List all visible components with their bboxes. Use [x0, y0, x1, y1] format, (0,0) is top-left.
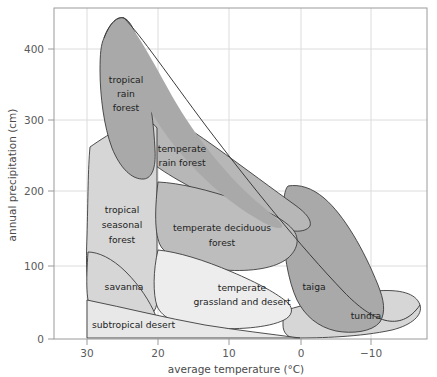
x-tick-label-20: 20 [151, 347, 164, 359]
label-tundra: tundra [351, 310, 382, 321]
x-tick-label-neg10: −10 [360, 347, 382, 359]
label-tropical-rain-forest-line2: rain [117, 88, 135, 99]
y-tick-label-300: 300 [24, 114, 44, 126]
x-tick-label-10: 10 [222, 347, 235, 359]
label-temperate-deciduous-forest-line1: temperate deciduous [173, 222, 271, 233]
chart-svg: tropical rain forest temperate rain fore… [0, 0, 437, 377]
label-subtropical-desert: subtropical desert [92, 319, 175, 330]
label-tropical-seasonal-forest-line1: tropical [105, 204, 139, 215]
label-temperate-rain-forest-line1: temperate [158, 143, 207, 154]
y-axis: 400 300 200 100 0 annual precipitation (… [6, 43, 54, 345]
y-tick-label-0: 0 [37, 333, 44, 345]
label-tropical-seasonal-forest-line3: forest [109, 234, 136, 245]
label-taiga: taiga [302, 281, 325, 292]
whittaker-biome-chart: tropical rain forest temperate rain fore… [0, 0, 437, 377]
x-axis-title: average temperature (°C) [168, 363, 304, 375]
label-savanna: savanna [105, 281, 144, 292]
label-tropical-rain-forest-line1: tropical [109, 74, 143, 85]
x-tick-label-0: 0 [298, 347, 305, 359]
x-tick-label-30: 30 [80, 347, 93, 359]
label-tropical-rain-forest-line3: forest [113, 102, 140, 113]
y-tick-label-100: 100 [24, 260, 44, 272]
label-temperate-grassland-desert-line1: temperate [218, 282, 267, 293]
y-axis-title: annual precipitation (cm) [6, 109, 18, 242]
x-axis: 30 20 10 0 −10 average temperature (°C) [80, 339, 382, 375]
label-temperate-grassland-desert-line2: grassland and desert [193, 296, 290, 307]
label-tropical-seasonal-forest-line2: seasonal [102, 219, 142, 230]
y-tick-label-200: 200 [24, 185, 44, 197]
y-tick-label-400: 400 [24, 43, 44, 55]
label-temperate-rain-forest-line2: rain forest [158, 157, 206, 168]
label-temperate-deciduous-forest-line2: forest [209, 237, 236, 248]
